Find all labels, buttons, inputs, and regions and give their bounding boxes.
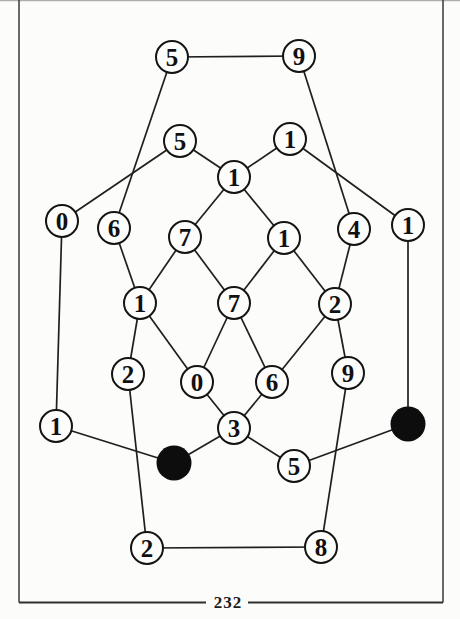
graph-edge-n1-n2 [172, 56, 299, 57]
graph-node-label: 5 [174, 128, 187, 155]
solid-black-node [157, 446, 192, 481]
graph-edge-n22-n23 [294, 424, 408, 466]
graph-node-label: 0 [56, 208, 69, 235]
graph-node-label: 4 [348, 216, 361, 243]
graph-node-label: 2 [329, 291, 342, 318]
graph-node-label: 6 [266, 369, 279, 396]
graph-edge-n19-n21 [56, 426, 174, 463]
graph-node-label: 9 [342, 360, 355, 387]
graph-edge-n6-n19 [56, 221, 62, 426]
page-number: 232 [214, 593, 243, 612]
graph-nodes-layer: 59511067141172206913528 [40, 40, 426, 564]
graph-edge-n24-n25 [147, 547, 321, 548]
graph-node-label: 2 [122, 361, 135, 388]
graph-edge-n18-n25 [321, 373, 348, 547]
graph-node-label: 7 [179, 224, 192, 251]
graph-node-label: 0 [191, 369, 204, 396]
graph-node-label: 3 [228, 415, 241, 442]
graph-edge-n15-n24 [128, 374, 147, 548]
graph-node-label: 1 [228, 164, 241, 191]
graph-node-label: 1 [278, 225, 291, 252]
graph-node-label: 5 [166, 44, 179, 71]
scanned-puzzle-page: 59511067141172206913528 232 [0, 0, 460, 619]
graph-node-label: 1 [402, 212, 415, 239]
graph-edge-n2-n10 [299, 56, 354, 229]
graph-node-label: 8 [315, 534, 328, 561]
graph-node-label: 6 [108, 215, 121, 242]
number-graph-figure: 59511067141172206913528 232 [0, 0, 460, 619]
graph-node-label: 1 [284, 126, 297, 153]
graph-node-label: 2 [141, 535, 154, 562]
solid-black-node [391, 407, 426, 442]
graph-node-label: 1 [50, 413, 63, 440]
graph-node-label: 7 [228, 290, 241, 317]
graph-node-label: 5 [288, 453, 301, 480]
graph-node-label: 9 [293, 43, 306, 70]
graph-node-label: 1 [134, 290, 147, 317]
